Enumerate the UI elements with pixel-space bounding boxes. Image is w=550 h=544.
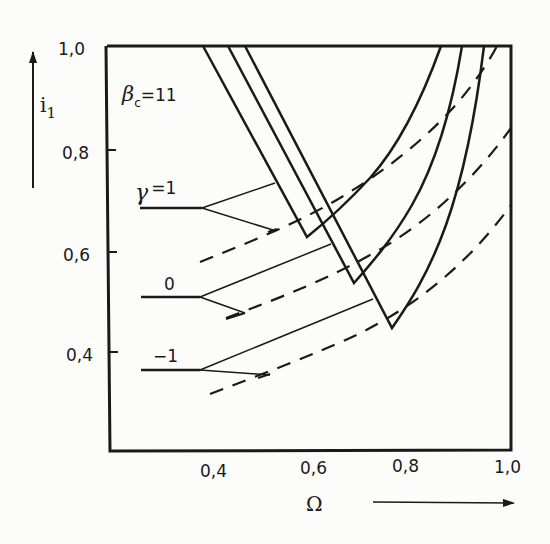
x-axis-arrow: [373, 502, 514, 503]
y-tick-label-08: 0,8: [62, 143, 89, 163]
y-tick-label-10: 1,0: [58, 39, 85, 59]
chart-figure: 1,0 0,8 0,6 0,4 0,4 0,6 0,8 1,0 i1 Ω βc=…: [0, 0, 550, 544]
x-tick-label-04: 0,4: [200, 461, 227, 481]
leader-gamma-minus1: [141, 299, 373, 378]
dashed-curve-gamma-0: [226, 128, 511, 318]
y-axis-title: i1: [40, 93, 56, 122]
x-tick-label-08: 0,8: [392, 456, 419, 476]
solid-curves: [203, 46, 484, 328]
dashed-curves: [200, 44, 511, 394]
x-axis-title: Ω: [306, 492, 323, 516]
y-tick-label-04: 0,4: [66, 345, 93, 365]
x-tick-label-06: 0,6: [300, 458, 327, 478]
y-tick-label-06: 0,6: [63, 245, 90, 265]
dashed-curve-gamma-minus1: [210, 205, 511, 394]
x-tick-label-10: 1,0: [494, 457, 521, 477]
beta-c-annotation: βc=11: [121, 82, 177, 110]
gamma-0-label: 0: [164, 274, 175, 294]
gamma-1-label: γ=1: [135, 178, 176, 205]
gamma-minus1-label: −1: [153, 346, 178, 366]
